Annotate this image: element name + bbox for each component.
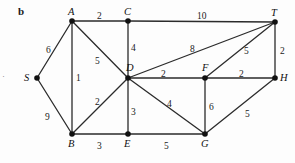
graph-edge-a-d (72, 21, 128, 78)
graph-node-b[interactable] (69, 131, 75, 137)
node-label-h: H (280, 73, 288, 84)
graph-node-t[interactable] (272, 19, 278, 25)
graph-edge-d-b (72, 78, 128, 134)
edge-weight-d-e: 3 (131, 108, 136, 118)
graph-node-a[interactable] (69, 18, 75, 24)
edge-weight-d-b: 2 (95, 98, 100, 108)
node-label-s: S (24, 73, 29, 84)
edge-weight-f-t: 5 (244, 47, 249, 57)
node-label-a: A (68, 7, 74, 18)
graph-edge-s-a (37, 21, 72, 78)
graph-node-s[interactable] (34, 75, 40, 81)
edge-weight-d-f: 2 (161, 70, 166, 80)
node-label-e: E (124, 139, 130, 150)
edge-weight-a-b: 1 (76, 74, 81, 84)
edge-weight-f-g: 6 (209, 103, 214, 113)
edge-weight-d-t: 8 (190, 45, 195, 55)
edge-weight-c-d: 4 (131, 44, 136, 54)
graph-canvas (0, 0, 295, 163)
edge-weight-s-a: 6 (46, 46, 51, 56)
node-label-d: D (126, 63, 134, 74)
edge-weight-c-t: 10 (197, 12, 207, 22)
graph-node-c[interactable] (125, 18, 131, 24)
edge-weight-s-b: 9 (45, 113, 50, 123)
graph-figure: b · 69215410232485262535ACTSDFHBEG (0, 0, 295, 163)
edge-weight-t-h: 2 (280, 47, 285, 57)
graph-edge-s-b (37, 78, 72, 134)
edge-weight-f-h: 2 (239, 70, 244, 80)
edge-weight-b-e: 3 (97, 142, 102, 152)
node-label-t: T (271, 8, 277, 19)
edge-weight-e-g: 5 (164, 142, 169, 152)
edge-weight-a-d: 5 (95, 57, 100, 67)
node-label-c: C (124, 7, 131, 18)
edge-weight-g-h: 5 (245, 110, 250, 120)
node-label-g: G (201, 139, 209, 150)
edge-weight-d-g: 4 (167, 100, 172, 110)
graph-node-e[interactable] (125, 131, 131, 137)
graph-node-h[interactable] (272, 75, 278, 81)
node-label-f: F (202, 63, 208, 74)
graph-node-d[interactable] (125, 75, 131, 81)
graph-edge-g-h (205, 78, 275, 134)
edge-weight-a-c: 2 (97, 12, 102, 22)
graph-node-f[interactable] (202, 75, 208, 81)
graph-node-g[interactable] (202, 131, 208, 137)
node-label-b: B (68, 139, 74, 150)
